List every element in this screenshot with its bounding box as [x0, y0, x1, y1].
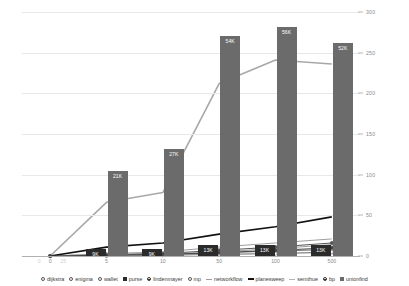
legend-circle-icon	[69, 277, 73, 281]
legend-item-wallet[interactable]: wallet	[98, 277, 118, 282]
legend-label: purse	[129, 277, 143, 282]
legend-item-planesweep[interactable]: planesweep	[248, 277, 285, 282]
x-axis-tick-label: 500	[328, 258, 337, 264]
x-axis-tick-label: 0	[49, 258, 52, 264]
legend-label: planesweep	[256, 277, 285, 282]
bar-value-label: 13K	[260, 247, 269, 253]
bar-purse: 13K	[255, 245, 275, 256]
legend-item-lindenmayer[interactable]: lindenmayer	[147, 277, 182, 282]
legend-square-icon	[340, 277, 344, 281]
legend-circle-icon	[188, 277, 192, 281]
x-axis-tick-label: 100	[271, 258, 280, 264]
bar-unionfind: 27K	[164, 149, 184, 256]
legend-label: wallet	[104, 277, 118, 282]
legend-circle-icon	[323, 277, 327, 281]
legend-circle-icon	[147, 277, 151, 281]
legend-item-networkflow[interactable]: networkflow	[206, 277, 242, 282]
legend-item-dijkstra[interactable]: dijkstra	[41, 277, 64, 282]
bar-value-label: 56K	[282, 29, 291, 35]
legend-circle-icon	[98, 277, 102, 281]
y-axis-tick-label: 100	[366, 172, 375, 178]
legend-line-icon	[206, 279, 212, 280]
legend-label: networkflow	[214, 277, 242, 282]
legend-label: mp	[194, 277, 202, 282]
bar-purse: 9K	[142, 249, 162, 256]
bar-value-label: 9K	[149, 251, 155, 257]
y-axis-tick-label: 150	[366, 131, 375, 137]
legend-label: bp	[329, 277, 335, 282]
bar-value-label: 54K	[226, 38, 235, 44]
legend-item-bp[interactable]: bp	[323, 277, 335, 282]
legend-label: lindenmayer	[153, 277, 182, 282]
legend-item-semthue[interactable]: semthue	[289, 277, 318, 282]
legend-square-icon	[123, 277, 127, 281]
bar-unionfind: 56K	[277, 27, 297, 256]
y-axis-tick-label: 50	[366, 212, 372, 218]
y-axis-tick-mark	[358, 215, 363, 216]
bar-unionfind: 21K	[108, 171, 128, 256]
bar-purse: 13K	[311, 245, 331, 256]
bar-purse: 13K	[198, 245, 218, 256]
gridline	[22, 175, 360, 176]
bar-value-label: 13K	[316, 247, 325, 253]
x-axis-tick-label: 5	[105, 258, 108, 264]
x-axis-tick-label: 10	[160, 258, 166, 264]
bar-value-label: 21K	[113, 173, 122, 179]
legend-label: dijkstra	[47, 277, 64, 282]
legend-line-icon	[289, 279, 295, 280]
gridline	[22, 12, 360, 13]
y-axis-tick-mark	[358, 256, 363, 257]
y-axis-tick-label: 300	[366, 9, 375, 15]
x-axis-line	[22, 256, 360, 257]
y-axis-tick-mark	[358, 93, 363, 94]
y-axis-tick-mark	[358, 174, 363, 175]
legend-item-unionfind[interactable]: unionfind	[340, 277, 368, 282]
y-axis-tick-label: 250	[366, 50, 375, 56]
x-axis-minor-tick-label: 0	[38, 258, 41, 264]
y-axis-tick-label: 200	[366, 90, 375, 96]
x-axis-tick-label: 50	[216, 258, 222, 264]
legend-item-mp[interactable]: mp	[188, 277, 202, 282]
bar-value-label: 9K	[92, 251, 98, 257]
gridline	[22, 93, 360, 94]
legend-circle-icon	[41, 277, 45, 281]
legend-label: semthue	[297, 277, 318, 282]
chart-container: 9K9K13K13K13K21K27K54K56K52K dijkstraeni…	[0, 0, 409, 286]
bar-unionfind: 54K	[220, 36, 240, 256]
gridline	[22, 53, 360, 54]
chart-legend: dijkstraenigmawalletpurselindenmayermpne…	[0, 277, 409, 282]
x-axis-minor-tick-label: 25	[60, 258, 66, 264]
bar-value-label: 27K	[169, 151, 178, 157]
legend-label: unionfind	[346, 277, 368, 282]
gridline	[22, 134, 360, 135]
legend-label: enigma	[75, 277, 93, 282]
bar-value-label: 52K	[338, 45, 347, 51]
legend-item-purse[interactable]: purse	[123, 277, 143, 282]
legend-line-icon	[248, 278, 254, 280]
plot-area: 9K9K13K13K13K21K27K54K56K52K	[22, 12, 360, 256]
y-axis-tick-mark	[358, 12, 363, 13]
bar-unionfind: 52K	[333, 43, 353, 256]
y-axis-tick-mark	[358, 134, 363, 135]
gridline	[22, 215, 360, 216]
y-axis-tick-mark	[358, 52, 363, 53]
y-axis-tick-label: 0	[366, 253, 369, 259]
bar-value-label: 13K	[204, 247, 213, 253]
bar-purse: 9K	[86, 249, 106, 256]
legend-item-enigma[interactable]: enigma	[69, 277, 93, 282]
